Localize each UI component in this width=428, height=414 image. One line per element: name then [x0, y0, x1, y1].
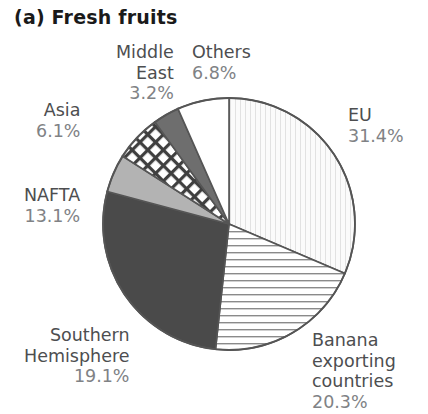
pie-label-nafta: NAFTA 13.1% — [24, 185, 80, 226]
pie-label-banana-line1: Banana — [312, 330, 396, 351]
pie-label-southern-line2: Hemisphere — [24, 346, 130, 367]
pie-label-middle-east-value: 3.2% — [116, 83, 174, 104]
pie-label-others: Others 6.8% — [192, 42, 251, 83]
pie-label-nafta-name: NAFTA — [24, 185, 80, 206]
pie-label-asia-name: Asia — [36, 100, 80, 121]
pie-label-southern-hemisphere: Southern Hemisphere 19.1% — [24, 325, 130, 387]
pie-label-banana-line2: exporting — [312, 351, 396, 372]
pie-label-middle-east-line2: East — [116, 63, 174, 84]
pie-label-southern-value: 19.1% — [24, 366, 130, 387]
pie-label-middle-east-line1: Middle — [116, 42, 174, 63]
pie-slices — [103, 98, 355, 350]
pie-label-eu-value: 31.4% — [348, 126, 404, 147]
pie-label-asia-value: 6.1% — [36, 121, 80, 142]
pie-label-others-value: 6.8% — [192, 63, 251, 84]
pie-label-banana-value: 20.3% — [312, 392, 396, 413]
pie-label-others-name: Others — [192, 42, 251, 63]
pie-label-eu-name: EU — [348, 105, 404, 126]
pie-label-southern-line1: Southern — [24, 325, 130, 346]
pie-label-asia: Asia 6.1% — [36, 100, 80, 141]
pie-label-eu: EU 31.4% — [348, 105, 404, 146]
pie-chart-figure: (a) Fresh fruits — [0, 0, 428, 414]
pie-label-nafta-value: 13.1% — [24, 206, 80, 227]
pie-label-banana-exporting-countries: Banana exporting countries 20.3% — [312, 330, 396, 412]
pie-label-banana-line3: countries — [312, 371, 396, 392]
pie-label-middle-east: Middle East 3.2% — [116, 42, 174, 104]
